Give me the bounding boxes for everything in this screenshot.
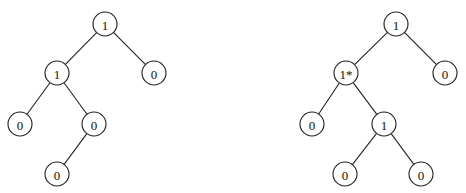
tree-node: 0 bbox=[45, 162, 69, 186]
tree-edge bbox=[353, 83, 377, 115]
tree-edge bbox=[404, 32, 436, 64]
tree-edge bbox=[391, 134, 414, 165]
tree-node: 0 bbox=[142, 61, 166, 85]
node-label: 1* bbox=[340, 67, 353, 82]
node-label: 0 bbox=[54, 168, 61, 183]
tree-node: 0 bbox=[300, 112, 324, 136]
tree-node: 0 bbox=[433, 61, 457, 85]
tree-node: 1 bbox=[372, 112, 396, 136]
tree-node: 0 bbox=[8, 112, 32, 136]
tree-edge bbox=[352, 133, 376, 164]
tree-edge bbox=[27, 83, 50, 115]
node-label: 0 bbox=[91, 118, 98, 133]
left-tree: 110000 bbox=[8, 12, 166, 186]
tree-edge bbox=[113, 32, 145, 64]
node-label: 0 bbox=[418, 168, 425, 183]
node-label: 1 bbox=[381, 118, 388, 133]
node-label: 0 bbox=[309, 118, 316, 133]
tree-node: 0 bbox=[409, 162, 433, 186]
tree-edge bbox=[319, 83, 340, 114]
tree-node: 1* bbox=[334, 61, 358, 85]
tree-node: 1 bbox=[93, 12, 117, 36]
node-label: 1 bbox=[102, 18, 109, 33]
node-label: 1 bbox=[393, 18, 400, 33]
tree-node: 1 bbox=[45, 61, 69, 85]
binary-trees-diagram: 11000011*00100 bbox=[0, 0, 466, 193]
node-label: 1 bbox=[54, 67, 61, 82]
node-label: 0 bbox=[442, 67, 449, 82]
tree-node: 1 bbox=[384, 12, 408, 36]
node-label: 0 bbox=[17, 118, 24, 133]
node-label: 0 bbox=[151, 67, 158, 82]
tree-edge bbox=[64, 134, 87, 165]
tree-edge bbox=[64, 83, 87, 115]
tree-edge bbox=[65, 33, 96, 65]
tree-node: 0 bbox=[333, 162, 357, 186]
right-tree: 11*00100 bbox=[300, 12, 457, 186]
node-label: 0 bbox=[342, 168, 349, 183]
tree-edge bbox=[355, 32, 388, 64]
tree-node: 0 bbox=[82, 112, 106, 136]
